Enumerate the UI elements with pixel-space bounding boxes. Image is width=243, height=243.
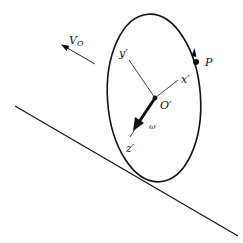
- point-P-label: P: [204, 56, 213, 69]
- velocity-label: VO: [69, 34, 84, 48]
- z-axis-label: z′: [125, 142, 135, 155]
- omega-arrow-shaft: [139, 98, 155, 122]
- center-point-O: [153, 96, 158, 101]
- y-axis-line: [129, 60, 155, 98]
- x-axis-line: [155, 80, 178, 98]
- x-axis-label: x′: [181, 73, 190, 86]
- incline-plane: [15, 106, 238, 236]
- point-P: [193, 59, 199, 65]
- disk-rolling-diagram: VO y′ x′ z′ ω O′ P: [0, 0, 243, 243]
- center-label: O′: [160, 99, 172, 112]
- y-axis-label: y′: [118, 47, 128, 60]
- rim-direction-arrow-icon: [192, 48, 197, 57]
- omega-label: ω: [149, 122, 156, 131]
